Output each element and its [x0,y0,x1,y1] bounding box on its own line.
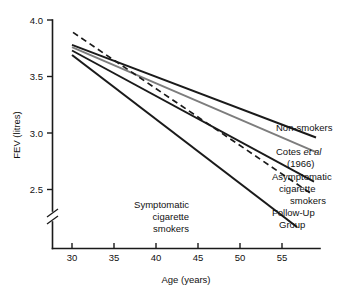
y-tick-label-3-0: 3.0 [30,128,43,139]
series-line-asymptomatic-cigarette-smokers [72,51,314,182]
y-tick-label-3-5: 3.5 [30,71,43,82]
x-tickmarks [72,243,282,249]
series-label-non-smokers: Non-smokers [276,122,333,133]
y-tick-label-2-5: 2.5 [30,184,43,195]
cotes-name: Cotes [276,146,301,157]
axis-group: 4.0 3.5 3.0 2.5 30 35 40 45 50 55 FEV (l… [11,15,320,286]
follow-up-line-2: Group [279,219,305,230]
cotes-italic: et al [303,146,322,157]
symptomatic-line-2: cigarette [153,211,189,222]
x-tick-label-55: 55 [277,252,288,263]
x-tick-label-50: 50 [235,252,246,263]
series-label-symptomatic-cigarette-smokers: Symptomatic cigarette smokers [134,199,189,234]
y-tick-label-4-0: 4.0 [30,15,43,26]
x-tick-label-30: 30 [67,252,78,263]
asymptomatic-line-1: Asymptomatic [272,171,332,182]
series-line-cotes-et-al [72,47,316,152]
series-line-follow-up-group [73,32,310,193]
x-tick-label-45: 45 [193,252,204,263]
series-label-asymptomatic-cigarette-smokers: Asymptomatic cigarette smokers [272,171,332,206]
series-label-follow-up-group: Follow-Up Group [272,207,315,230]
y-tickmarks [47,20,53,190]
follow-up-line-1: Follow-Up [272,207,315,218]
asymptomatic-line-2: cigarette [279,183,315,194]
x-axis-title: Age (years) [161,274,210,285]
svg-text:Cotes et al: Cotes et al [276,146,322,157]
symptomatic-line-1: Symptomatic [134,199,189,210]
asymptomatic-line-3: smokers [290,195,326,206]
x-tick-label-40: 40 [151,252,162,263]
y-axis-title: FEV (litres) [11,111,22,159]
cotes-year: (1966) [287,158,314,169]
fev-vs-age-line-chart: 4.0 3.5 3.0 2.5 30 35 40 45 50 55 FEV (l… [0,0,364,298]
x-tick-label-35: 35 [109,252,120,263]
symptomatic-line-3: smokers [153,223,189,234]
